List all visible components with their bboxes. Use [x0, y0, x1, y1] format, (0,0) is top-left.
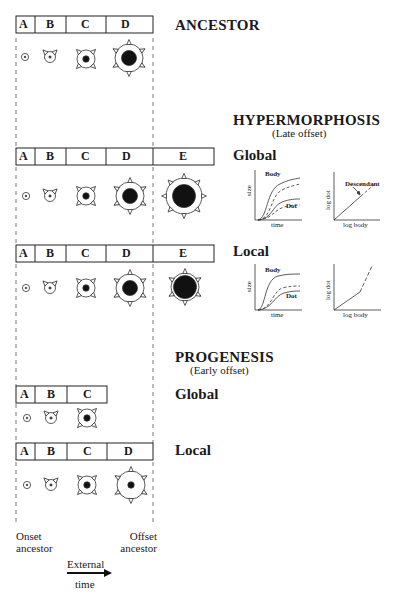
- stage-label-d: D: [124, 444, 133, 459]
- prog-global-label: Global: [175, 386, 218, 403]
- stage-label-e: E: [179, 149, 187, 164]
- ancestor-organisms: [21, 40, 146, 77]
- stage-label-a: A: [20, 444, 29, 459]
- prog-local-label: Local: [175, 442, 211, 459]
- graph-time-label: time: [271, 311, 283, 319]
- stage-label-c: C: [83, 444, 92, 459]
- onset-line2: ancestor: [16, 542, 53, 554]
- stage-label-b: B: [46, 246, 54, 261]
- external-time-label-bottom: time: [75, 578, 95, 590]
- stage-label-b: B: [47, 387, 55, 402]
- stage-label-c: C: [81, 149, 90, 164]
- graph-size-label: size: [245, 185, 253, 196]
- stage-label-a: A: [19, 149, 28, 164]
- hypermorphosis-subtitle: (Late offset): [272, 127, 326, 139]
- hyper-local-label: Local: [233, 243, 269, 260]
- hyper-global-organisms: [22, 174, 206, 219]
- external-time-arrow: [67, 569, 112, 577]
- hyper-global-label: Global: [233, 147, 276, 164]
- stage-label-b: B: [47, 444, 55, 459]
- graph-time-label: time: [271, 221, 283, 229]
- hyper-local-organisms: [22, 269, 202, 307]
- stage-label-c: C: [83, 387, 92, 402]
- stage-label-c: C: [81, 246, 90, 261]
- stage-label-d: D: [122, 149, 131, 164]
- hyper-local-stage-labels: A B C D E: [16, 245, 214, 262]
- graph-log-body-label: log body: [343, 311, 368, 319]
- prog-global-stage-labels: A B C: [16, 386, 107, 403]
- prog-local-stage-labels: A B C D: [16, 443, 153, 460]
- offset-line2: ancestor: [117, 542, 157, 554]
- graph-dot-label: Dot: [286, 292, 297, 300]
- stage-label-c: C: [81, 17, 90, 32]
- stage-label-d: D: [121, 17, 130, 32]
- offset-ancestor-label: Offset ancestor: [117, 530, 157, 554]
- graph-log-dot-label: log dot: [324, 190, 332, 210]
- stage-label-d: D: [122, 246, 131, 261]
- progenesis-subtitle: (Early offset): [190, 364, 249, 376]
- stage-label-b: B: [46, 149, 54, 164]
- ancestor-stage-labels: A B C D: [16, 16, 153, 33]
- prog-global-organisms: [23, 407, 98, 429]
- diagram-canvas: [0, 0, 393, 598]
- graph-descendant-label: Descendant: [345, 180, 380, 188]
- graph-dot-label: Dot: [286, 202, 297, 210]
- ancestor-title: ANCESTOR: [175, 17, 260, 34]
- hyper-global-stage-labels: A B C D E: [16, 148, 214, 165]
- hyper-local-allometry-graph: [334, 264, 381, 310]
- graph-log-body-label: log body: [343, 221, 368, 229]
- stage-label-e: E: [179, 246, 187, 261]
- graph-body-label: Body: [265, 266, 281, 274]
- graph-log-dot-label: log dot: [324, 280, 332, 300]
- onset-line1: Onset: [16, 530, 53, 542]
- offset-line1: Offset: [117, 530, 157, 542]
- graph-body-label: Body: [265, 170, 281, 178]
- external-time-label-top: External: [67, 558, 104, 570]
- onset-ancestor-label: Onset ancestor: [16, 530, 53, 554]
- stage-label-b: B: [46, 17, 54, 32]
- stage-label-a: A: [20, 387, 29, 402]
- stage-label-a: A: [19, 246, 28, 261]
- stage-label-a: A: [19, 17, 28, 32]
- prog-local-organisms: [23, 467, 148, 504]
- graph-size-label: size: [245, 281, 253, 292]
